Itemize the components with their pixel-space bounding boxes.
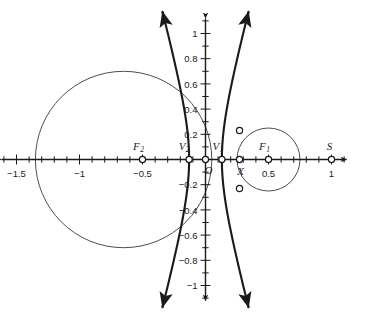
y-tick-label: 0.8 bbox=[184, 53, 197, 64]
y-tick-label: −0.8 bbox=[179, 255, 198, 266]
y-tick-label: 0.2 bbox=[184, 129, 197, 140]
x-tick-label: −0.5 bbox=[133, 168, 152, 179]
point-marker-O bbox=[202, 156, 208, 162]
point-label-S: S bbox=[327, 140, 333, 152]
point-label-F1: F1 bbox=[258, 140, 270, 155]
x-tick-label: 1 bbox=[329, 168, 334, 179]
plot-canvas: −1.5−1−0.50.5110.80.60.40.2−0.2−0.4−0.6−… bbox=[0, 0, 371, 314]
point-label-layer: F2V2OV1XF1S bbox=[132, 140, 333, 177]
y-tick-label: −0.4 bbox=[179, 205, 198, 216]
y-tick-label: 0.4 bbox=[184, 104, 197, 115]
hyperbola-arrow bbox=[162, 12, 163, 15]
hyperbola-diagram: −1.5−1−0.50.5110.80.60.40.2−0.2−0.4−0.6−… bbox=[0, 0, 371, 314]
point-label-O: O bbox=[205, 164, 213, 176]
point-label-F2: F2 bbox=[132, 140, 144, 155]
point-marker-lower-intersection bbox=[236, 185, 242, 191]
hyperbola-arrow bbox=[248, 304, 249, 307]
point-marker-F1 bbox=[265, 156, 271, 162]
point-marker-S bbox=[328, 156, 334, 162]
y-tick-label: −0.6 bbox=[179, 230, 198, 241]
y-tick-label: −0.2 bbox=[179, 179, 198, 190]
point-marker-upper-intersection bbox=[236, 127, 242, 133]
y-tick-label: −1 bbox=[187, 280, 198, 291]
y-tick-label: 1 bbox=[192, 28, 197, 39]
point-marker-V1 bbox=[219, 156, 225, 162]
x-tick-label: −1.5 bbox=[7, 168, 26, 179]
point-marker-F2 bbox=[139, 156, 145, 162]
y-tick-label: 0.6 bbox=[184, 79, 197, 90]
hyperbola-arrow bbox=[248, 12, 249, 15]
point-marker-V2 bbox=[186, 156, 192, 162]
point-marker-X bbox=[236, 156, 242, 162]
x-tick-label: −1 bbox=[74, 168, 85, 179]
hyperbola-arrow bbox=[162, 304, 163, 307]
point-label-X: X bbox=[236, 165, 245, 177]
x-tick-label: 0.5 bbox=[262, 168, 275, 179]
